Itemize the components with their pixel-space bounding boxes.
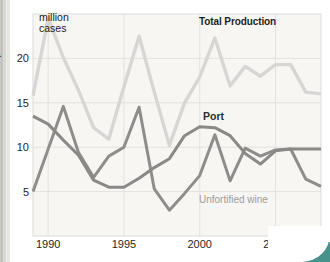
series-label-total-production: Total Production (199, 16, 276, 27)
x-tick-label: 1990 (36, 238, 60, 250)
cropped-edge-text: t (0, 51, 1, 66)
chart: 51015201990199520002005 million cases To… (0, 0, 330, 262)
y-tick-label: 15 (17, 97, 29, 109)
series-label-port: Port (203, 110, 224, 122)
x-tick-label: 2000 (187, 238, 211, 250)
y-tick-label: 10 (17, 141, 29, 153)
screenshot-root: 51015201990199520002005 million cases To… (0, 0, 330, 262)
y-tick-label: 5 (23, 186, 29, 198)
y-tick-label: 20 (17, 52, 29, 64)
edge-strip-texture (0, 0, 9, 262)
series-label-unfortified-wine: Unfortified wine (199, 194, 268, 205)
line-chart-canvas: 51015201990199520002005 (0, 0, 330, 262)
x-tick-label: 1995 (112, 238, 136, 250)
y-axis-title: million cases (39, 12, 69, 34)
window-edge-strip: t (0, 0, 10, 262)
